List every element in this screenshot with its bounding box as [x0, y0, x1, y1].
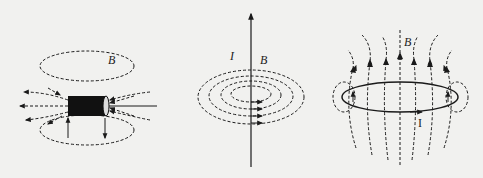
diagram-svg: B I B [0, 0, 483, 178]
field-line [48, 116, 62, 124]
field-direction-arrow [386, 60, 388, 118]
current-label-i: I [418, 116, 422, 130]
field-line [362, 35, 372, 155]
solenoid-body [68, 96, 106, 116]
field-line [382, 36, 388, 160]
upper-field-loop [40, 51, 134, 81]
field-line [24, 92, 68, 100]
solenoid-panel: B [20, 51, 157, 145]
field-line [110, 111, 150, 120]
field-label-b: B [404, 35, 412, 49]
field-line [48, 88, 60, 95]
current-label-i: I [229, 49, 235, 63]
lower-field-loop [40, 115, 134, 145]
field-line [428, 35, 438, 155]
field-label-b: B [260, 53, 268, 67]
field-line [412, 36, 418, 160]
side-field-loop [446, 82, 468, 112]
field-line [110, 96, 134, 103]
field-line [110, 92, 150, 100]
magnetic-field-diagram: B I B [0, 0, 483, 178]
field-label-b: B [108, 53, 116, 67]
straight-wire-panel: I B [198, 14, 304, 167]
solenoid-end [103, 96, 109, 116]
side-field-loop [333, 82, 355, 112]
current-loop-panel: B I [333, 30, 468, 165]
